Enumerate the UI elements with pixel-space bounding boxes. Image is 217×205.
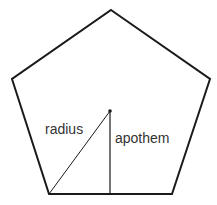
apothem-label: apothem [115, 130, 169, 146]
pentagon-diagram: radius apothem [0, 0, 217, 205]
center-point [108, 109, 112, 113]
diagram-canvas: radius apothem [0, 0, 217, 205]
pentagon-outline [12, 10, 210, 194]
radius-label: radius [45, 121, 83, 137]
